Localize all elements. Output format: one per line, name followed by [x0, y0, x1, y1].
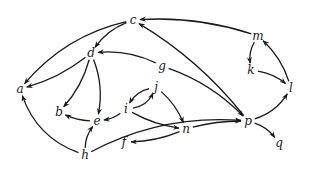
edge-j-to-n: [161, 92, 183, 123]
edge-d-to-e: [94, 60, 101, 115]
edge-m-to-c: [140, 19, 251, 34]
node-d: d: [87, 46, 95, 60]
edge-i-to-e: [104, 113, 120, 120]
node-k: k: [247, 63, 254, 77]
edge-l-to-m: [263, 41, 289, 82]
node-n: n: [182, 122, 190, 136]
node-l: l: [289, 81, 293, 95]
node-b: b: [55, 105, 63, 119]
node-h: h: [81, 148, 89, 162]
edge-j-to-i: [130, 89, 150, 103]
node-e: e: [93, 114, 100, 128]
node-m: m: [252, 29, 263, 43]
edge-m-to-k: [250, 42, 255, 63]
edge-g-to-d: [98, 52, 156, 63]
edge-d-to-b: [64, 60, 90, 107]
edge-e-to-b: [65, 115, 90, 121]
node-f: f: [121, 135, 129, 149]
node-p: p: [244, 114, 252, 128]
edge-n-to-f: [131, 132, 180, 142]
directed-graph: abcdefghijklmnpq: [0, 0, 311, 178]
node-a: a: [16, 82, 23, 96]
node-i: i: [124, 102, 128, 116]
edge-p-to-l: [255, 94, 288, 119]
edge-n-to-p: [193, 121, 241, 127]
edge-h-to-a: [22, 96, 78, 153]
edge-g-to-p: [169, 68, 244, 116]
edge-h-to-p: [91, 120, 241, 152]
node-c: c: [130, 13, 137, 27]
edge-p-to-q: [255, 123, 275, 137]
edge-h-to-e: [85, 127, 93, 148]
node-j: j: [151, 80, 158, 94]
edge-i-to-n: [132, 112, 179, 128]
node-q: q: [275, 136, 283, 150]
node-g: g: [158, 59, 166, 73]
edge-k-to-l: [258, 71, 286, 83]
